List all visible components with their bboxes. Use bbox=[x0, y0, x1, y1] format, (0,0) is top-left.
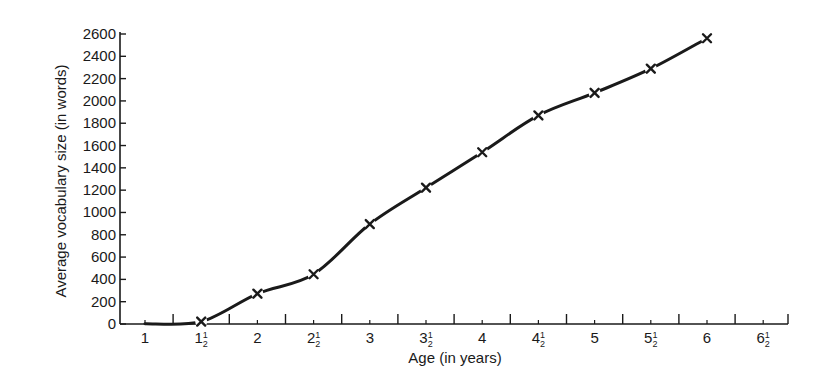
y-tick-label: 1400 bbox=[83, 159, 116, 176]
y-tick-label: 600 bbox=[91, 248, 116, 265]
data-point-x-marker-icon bbox=[532, 109, 544, 121]
y-tick-label: 800 bbox=[91, 226, 116, 243]
vocabulary-line-chart: 0200400600800100012001400160018002000220… bbox=[0, 0, 826, 391]
data-point-x-marker-icon bbox=[476, 146, 488, 158]
x-tick-label: 1 bbox=[141, 329, 149, 346]
data-point-x-marker-icon bbox=[364, 218, 376, 230]
data-point-x-marker-icon bbox=[645, 63, 657, 75]
x-tick-label: 3 bbox=[366, 329, 374, 346]
x-axis-title: Age (in years) bbox=[408, 349, 501, 366]
x-tick-label: 6 bbox=[703, 329, 711, 346]
data-point-x-marker-icon bbox=[420, 182, 432, 194]
x-tick-label: 4 bbox=[478, 329, 486, 346]
y-tick-label: 1200 bbox=[83, 181, 116, 198]
data-point-x-marker-icon bbox=[589, 87, 601, 99]
x-tick-label: 212 bbox=[307, 329, 320, 349]
data-point-x-marker-icon bbox=[308, 268, 320, 280]
y-tick-label: 2400 bbox=[83, 47, 116, 64]
y-tick-label: 2600 bbox=[83, 25, 116, 42]
vocabulary-line bbox=[145, 38, 707, 324]
x-tick-label: 5 bbox=[590, 329, 598, 346]
y-tick-label: 0 bbox=[108, 315, 116, 332]
y-tick-label: 200 bbox=[91, 293, 116, 310]
y-tick-label: 1600 bbox=[83, 137, 116, 154]
data-point-x-marker-icon bbox=[195, 316, 207, 328]
y-tick-label: 2200 bbox=[83, 70, 116, 87]
x-tick-label: 512 bbox=[644, 329, 657, 349]
y-tick-label: 2000 bbox=[83, 92, 116, 109]
x-tick-label: 412 bbox=[532, 329, 545, 349]
x-tick-label: 312 bbox=[419, 329, 432, 349]
x-tick-label: 2 bbox=[253, 329, 261, 346]
data-point-x-marker-icon bbox=[701, 32, 713, 44]
y-axis: 0200400600800100012001400160018002000220… bbox=[83, 25, 126, 332]
y-tick-label: 1000 bbox=[83, 203, 116, 220]
data-point-x-marker-icon bbox=[251, 288, 263, 300]
y-axis-title: Average vocabulary size (in words) bbox=[52, 64, 69, 297]
y-tick-label: 400 bbox=[91, 270, 116, 287]
x-tick-label: 612 bbox=[757, 329, 770, 349]
vocabulary-series bbox=[145, 32, 713, 327]
x-axis: 111222123312441255126612 bbox=[120, 314, 788, 349]
y-tick-label: 1800 bbox=[83, 114, 116, 131]
x-tick-label: 112 bbox=[195, 329, 208, 349]
